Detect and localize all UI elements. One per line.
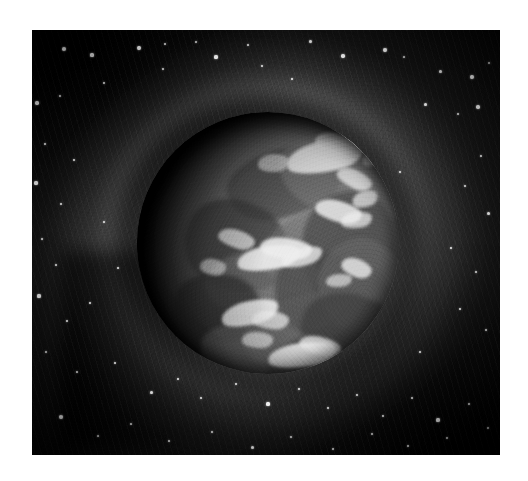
print-grain-texture <box>32 30 500 455</box>
artwork-plate <box>32 30 500 455</box>
artwork-title: Planet surrounded by a swirling nebula v… <box>0 0 1 1</box>
page-canvas: Planet surrounded by a swirling nebula v… <box>0 0 528 481</box>
